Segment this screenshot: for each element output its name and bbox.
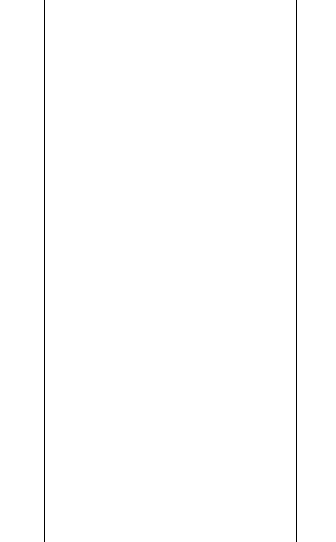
chart-figure [0, 0, 336, 542]
x-axis [296, 0, 318, 542]
plot-area [46, 0, 296, 542]
secondary-axis-line [44, 0, 45, 542]
secondary-multiplier-axis [30, 0, 46, 542]
x-axis-line [296, 0, 297, 542]
